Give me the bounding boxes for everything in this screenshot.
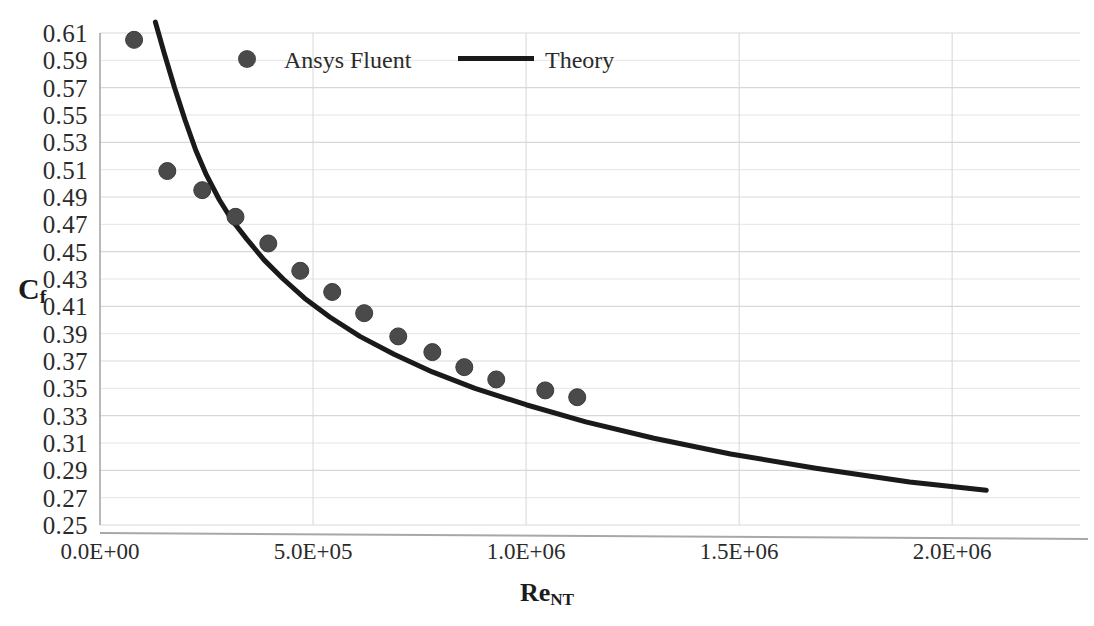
data-point-marker <box>569 389 586 406</box>
y-tick-label: 0.37 <box>0 349 88 374</box>
y-tick-label: 0.49 <box>0 185 88 210</box>
data-point-marker <box>227 208 244 225</box>
x-tick-label: 2.0E+06 <box>852 540 1052 563</box>
y-tick-label: 0.35 <box>0 376 88 401</box>
data-point-marker <box>537 382 554 399</box>
x-axis-title-subscript: NT <box>550 590 574 609</box>
data-point-marker <box>488 371 505 388</box>
y-tick-label: 0.31 <box>0 431 88 456</box>
x-tick-label: 5.0E+05 <box>213 540 413 563</box>
y-tick-label: 0.45 <box>0 240 88 265</box>
y-axis-title: Cf <box>18 272 46 308</box>
series-line-theory <box>155 22 986 490</box>
y-tick-label: 0.59 <box>0 48 88 73</box>
data-point-marker <box>126 31 143 48</box>
data-point-marker <box>456 359 473 376</box>
x-axis-title: ReNT <box>0 578 1094 610</box>
y-axis-title-subscript: f <box>40 285 47 307</box>
y-tick-label: 0.25 <box>0 513 88 538</box>
chart-container: 0.250.270.290.310.330.350.370.390.410.43… <box>0 0 1094 626</box>
x-tick-label: 0.0E+00 <box>0 540 200 563</box>
data-point-marker <box>159 163 176 180</box>
legend-label-theory: Theory <box>545 47 614 74</box>
y-tick-label: 0.39 <box>0 322 88 347</box>
y-tick-label: 0.55 <box>0 103 88 128</box>
y-tick-label: 0.29 <box>0 458 88 483</box>
data-point-marker <box>324 283 341 300</box>
x-tick-label: 1.5E+06 <box>639 540 839 563</box>
data-point-marker <box>194 182 211 199</box>
plot-area <box>0 0 1094 626</box>
y-tick-label: 0.57 <box>0 76 88 101</box>
y-tick-label: 0.53 <box>0 130 88 155</box>
data-point-marker <box>292 262 309 279</box>
data-point-marker <box>356 305 373 322</box>
y-tick-label: 0.47 <box>0 212 88 237</box>
data-point-marker <box>424 344 441 361</box>
y-tick-label: 0.51 <box>0 158 88 183</box>
legend-label-ansys-fluent: Ansys Fluent <box>284 47 411 74</box>
y-tick-label: 0.61 <box>0 21 88 46</box>
x-tick-label: 1.0E+06 <box>426 540 626 563</box>
y-tick-label: 0.27 <box>0 486 88 511</box>
legend-marker-ansys-fluent <box>238 50 256 68</box>
data-point-marker <box>260 235 277 252</box>
legend-line-theory <box>458 56 534 61</box>
y-tick-label: 0.33 <box>0 404 88 429</box>
data-point-marker <box>390 328 407 345</box>
